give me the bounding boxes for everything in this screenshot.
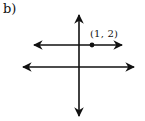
point-marker: [90, 43, 95, 48]
coordinate-diagram: [0, 0, 145, 121]
